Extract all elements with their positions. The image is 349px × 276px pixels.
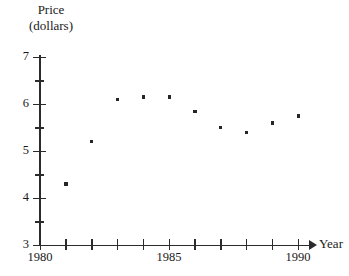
y-tick-label-7: 7 (5, 49, 29, 64)
x-tick-label-1985: 1985 (146, 250, 192, 265)
x-tick-1990 (298, 239, 300, 250)
data-point-1989 (271, 121, 274, 124)
x-tick-1980 (40, 239, 42, 250)
x-tick-1987 (220, 239, 222, 250)
y-tick-7 (33, 57, 46, 59)
x-tick-1983 (117, 239, 119, 250)
y-tick-6 (33, 104, 46, 106)
x-tick-1986 (194, 239, 196, 250)
x-tick-1982 (91, 239, 93, 250)
data-point-1990 (297, 114, 300, 117)
data-point-1987 (219, 126, 222, 129)
y-tick-5-5 (35, 127, 44, 129)
data-point-1981 (64, 182, 67, 185)
data-point-1985 (168, 95, 171, 98)
data-point-1982 (90, 140, 93, 143)
x-tick-label-1990: 1990 (275, 250, 321, 265)
y-tick-5 (33, 151, 46, 153)
y-axis-title: Price (dollars) (8, 2, 94, 34)
y-tick-label-6: 6 (5, 96, 29, 111)
x-tick-1989 (272, 239, 274, 250)
y-tick-label-4: 4 (5, 190, 29, 205)
y-axis-title-line2: (dollars) (8, 18, 94, 34)
y-axis-title-line1: Price (8, 2, 94, 18)
y-tick-4-5 (35, 174, 44, 176)
x-axis-arrow-icon (309, 240, 317, 250)
x-tick-1984 (143, 239, 145, 250)
data-point-1983 (116, 98, 119, 101)
x-axis-line (39, 245, 311, 247)
y-tick-6-5 (35, 80, 44, 82)
data-point-1986 (193, 110, 196, 113)
x-tick-1988 (246, 239, 248, 250)
data-point-1988 (245, 131, 248, 134)
y-tick-3-5 (35, 221, 44, 223)
x-tick-label-1980: 1980 (17, 250, 63, 265)
x-tick-1985 (169, 239, 171, 250)
x-tick-1981 (65, 239, 67, 250)
x-axis-title: Year (319, 236, 343, 252)
price-year-scatter-chart: Price (dollars) 7 6 5 4 3 1980 1985 1990… (0, 0, 349, 276)
y-tick-label-5: 5 (5, 143, 29, 158)
y-tick-4 (33, 198, 46, 200)
data-point-1984 (142, 95, 145, 98)
